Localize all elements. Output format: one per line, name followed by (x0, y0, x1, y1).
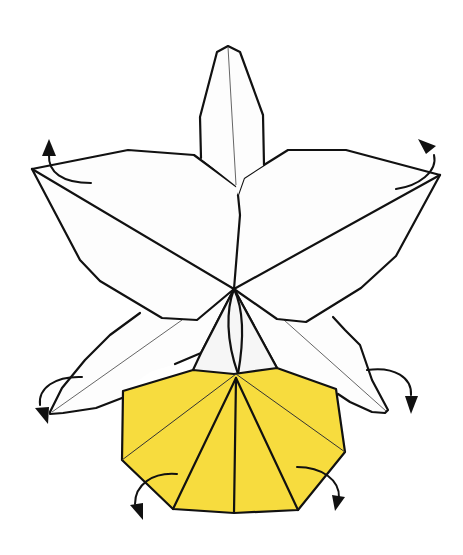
left-wing-petal (32, 150, 238, 320)
orchid-diagram-svg (0, 0, 463, 555)
right-wing-petal (234, 150, 440, 322)
origami-diagram (0, 0, 463, 555)
lip (122, 368, 345, 513)
